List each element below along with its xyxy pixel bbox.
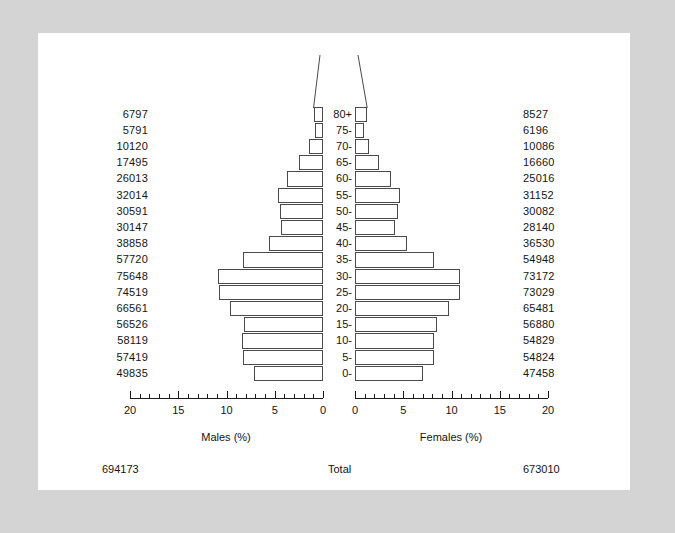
axis-minor-tick: [529, 394, 530, 398]
axis-minor-tick: [207, 394, 208, 398]
male-value-label: 30591: [98, 205, 148, 217]
axis-tick-label: 15: [485, 404, 515, 416]
axis-minor-tick: [294, 394, 295, 398]
female-bar: [355, 171, 391, 186]
axis-minor-tick: [374, 394, 375, 398]
female-value-label: 54948: [523, 253, 578, 265]
axis-tick-label: 10: [437, 404, 467, 416]
axis-tick-label: 0: [308, 404, 338, 416]
axis-minor-tick: [313, 394, 314, 398]
male-bar: [280, 204, 323, 219]
female-bar: [355, 366, 423, 381]
female-value-label: 16660: [523, 156, 578, 168]
female-bar: [355, 123, 364, 138]
female-value-label: 47458: [523, 367, 578, 379]
male-bar: [315, 123, 323, 138]
total-label: Total: [328, 463, 351, 475]
axis-major-tick: [355, 391, 356, 398]
axis-tick-label: 5: [388, 404, 418, 416]
axis-minor-tick: [255, 394, 256, 398]
axis-major-tick: [500, 391, 501, 398]
male-value-label: 10120: [98, 140, 148, 152]
female-value-label: 56880: [523, 318, 578, 330]
age-group-label: 35-: [324, 253, 352, 265]
axis-minor-tick: [538, 394, 539, 398]
male-bar: [243, 350, 323, 365]
male-value-label: 66561: [98, 302, 148, 314]
age-group-label: 5-: [324, 351, 352, 363]
age-group-label: 70-: [324, 140, 352, 152]
axis-tick-label: 20: [115, 404, 145, 416]
axis-major-tick: [548, 391, 549, 398]
male-value-label: 38858: [98, 237, 148, 249]
female-bar: [355, 301, 449, 316]
axis-major-tick: [403, 391, 404, 398]
male-value-label: 57419: [98, 351, 148, 363]
axis-minor-tick: [509, 394, 510, 398]
males-total-value: 694173: [102, 463, 139, 475]
female-bar: [355, 333, 434, 348]
axis-minor-tick: [413, 394, 414, 398]
axis-major-tick: [227, 391, 228, 398]
axis-line: [130, 398, 323, 399]
female-bar: [355, 188, 400, 203]
age-group-label: 20-: [324, 302, 352, 314]
female-value-label: 25016: [523, 172, 578, 184]
female-value-label: 54824: [523, 351, 578, 363]
female-bar: [355, 155, 379, 170]
male-value-label: 17495: [98, 156, 148, 168]
male-value-label: 75648: [98, 270, 148, 282]
axis-minor-tick: [140, 394, 141, 398]
axis-minor-tick: [246, 394, 247, 398]
female-open-age-spike: [355, 55, 415, 109]
male-bar: [269, 236, 323, 251]
male-value-label: 56526: [98, 318, 148, 330]
female-bar: [355, 285, 460, 300]
male-bar: [242, 333, 323, 348]
male-value-label: 5791: [98, 124, 148, 136]
age-group-label: 25-: [324, 286, 352, 298]
male-value-label: 49835: [98, 367, 148, 379]
male-bar: [278, 188, 323, 203]
female-bar: [355, 204, 398, 219]
axis-minor-tick: [519, 394, 520, 398]
axis-minor-tick: [461, 394, 462, 398]
male-open-age-spike: [263, 55, 323, 109]
age-group-label: 45-: [324, 221, 352, 233]
axis-minor-tick: [423, 394, 424, 398]
female-bar: [355, 236, 407, 251]
female-bar: [355, 139, 369, 154]
female-bar: [355, 317, 437, 332]
axis-tick-label: 10: [212, 404, 242, 416]
female-value-label: 6196: [523, 124, 578, 136]
axis-major-tick: [452, 391, 453, 398]
axis-minor-tick: [169, 394, 170, 398]
female-value-label: 8527: [523, 108, 578, 120]
male-bar: [230, 301, 323, 316]
axis-minor-tick: [217, 394, 218, 398]
male-bar: [243, 252, 323, 267]
population-pyramid-page: 4983557419581195652666561745197564857720…: [0, 0, 675, 533]
age-group-label: 15-: [324, 318, 352, 330]
age-group-label: 50-: [324, 205, 352, 217]
female-value-label: 31152: [523, 189, 578, 201]
axis-tick-label: 5: [260, 404, 290, 416]
axis-minor-tick: [394, 394, 395, 398]
axis-tick-label: 0: [340, 404, 370, 416]
axis-major-tick: [323, 391, 324, 398]
male-bar: [244, 317, 323, 332]
female-value-label: 54829: [523, 334, 578, 346]
male-value-label: 30147: [98, 221, 148, 233]
age-group-label: 30-: [324, 270, 352, 282]
axis-minor-tick: [159, 394, 160, 398]
axis-minor-tick: [149, 394, 150, 398]
male-bar: [299, 155, 323, 170]
age-group-label: 80+: [324, 108, 352, 120]
female-bar: [355, 350, 434, 365]
female-bar: [355, 220, 395, 235]
axis-minor-tick: [490, 394, 491, 398]
axis-minor-tick: [480, 394, 481, 398]
axis-minor-tick: [384, 394, 385, 398]
axis-minor-tick: [236, 394, 237, 398]
female-bar: [355, 269, 460, 284]
